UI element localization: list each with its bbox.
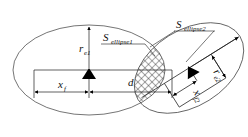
intersection-hatch-area (0, 0, 248, 137)
label-x-f: x f (57, 78, 67, 93)
geometry-figure: S ellipse1 S ellipse2 r e1 x f d r e2 x … (0, 0, 248, 137)
label-d-base: d (128, 76, 134, 88)
label-x-f2: x f2 (188, 86, 207, 105)
ellipse2-frame-bottom-line (179, 78, 226, 107)
ellipse-2-outline (118, 4, 248, 132)
label-x-f-base: x (57, 78, 63, 90)
label-d: d (128, 76, 134, 88)
label-s-ellipse2-base: S (176, 18, 182, 30)
label-x-f2-subscript: f2 (192, 96, 202, 105)
figure-canvas: S ellipse1 S ellipse2 r e1 x f d r e2 x … (0, 0, 248, 137)
label-s-ellipse2-subscript: ellipse2 (184, 25, 206, 33)
label-s-ellipse1-base: S (103, 31, 109, 43)
s-ellipse2-leader-line-left (150, 31, 175, 47)
label-r-e2: r e2 (209, 66, 228, 85)
label-s-ellipse1-subscript: ellipse1 (111, 38, 133, 46)
s-ellipse2-leader-line-right (186, 31, 214, 62)
label-r-e1-subscript: e1 (84, 49, 91, 57)
re2-dimension-line (191, 37, 238, 67)
